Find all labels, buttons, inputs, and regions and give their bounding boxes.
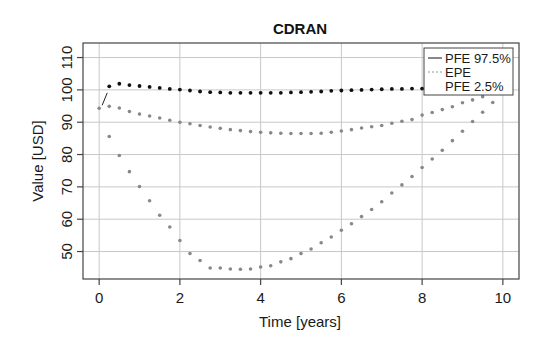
- pfe-97-5-point: [289, 91, 293, 95]
- pfe-97-5-point: [329, 89, 333, 93]
- pfe-97-5-point: [400, 87, 404, 91]
- pfe-97-5-point: [370, 88, 374, 92]
- pfe-2-5-point: [239, 268, 243, 272]
- pfe-97-5-point: [188, 89, 192, 93]
- epe-point: [309, 132, 313, 136]
- y-tick-label: 50: [58, 243, 75, 260]
- epe-point: [97, 107, 101, 111]
- pfe-97-5-point: [158, 86, 162, 90]
- pfe-2-5-point: [390, 191, 394, 195]
- pfe-2-5-point: [168, 225, 172, 229]
- pfe-2-5-point: [451, 139, 455, 143]
- pfe-2-5-point: [249, 267, 253, 271]
- legend: PFE 97.5% EPE PFE 2.5%: [424, 48, 513, 95]
- pfe-97-5-point: [360, 88, 364, 92]
- epe-point: [158, 116, 162, 120]
- y-axis: 5060708090100110: [58, 46, 83, 260]
- pfe-2-5-point: [218, 266, 222, 270]
- pfe-2-5-point: [481, 110, 485, 114]
- series-layer: [97, 82, 494, 271]
- epe-point: [128, 110, 132, 114]
- epe-point: [430, 111, 434, 115]
- pfe-2-5-point: [289, 257, 293, 261]
- pfe-97-5-point: [117, 82, 121, 86]
- pfe-2-5-point: [340, 228, 344, 232]
- epe-point: [259, 130, 263, 134]
- x-axis-label: Time [years]: [259, 313, 341, 330]
- pfe-2-5-point: [138, 185, 142, 189]
- pfe-2-5-point: [118, 154, 122, 158]
- pfe-2-5-point: [430, 157, 434, 161]
- pfe-2-5-point: [380, 200, 384, 204]
- pfe-2-5-point: [178, 239, 182, 243]
- pfe-2-5-point: [370, 208, 374, 212]
- y-axis-label: Value [USD]: [29, 120, 46, 201]
- pfe-2-5-point: [208, 266, 212, 270]
- epe-point: [350, 128, 354, 132]
- pfe-2-5-point: [319, 241, 323, 245]
- epe-point: [440, 108, 444, 112]
- pfe-2-5-point: [350, 222, 354, 226]
- epe-point: [178, 120, 182, 124]
- x-tick-label: 10: [495, 289, 512, 306]
- epe-point: [360, 126, 364, 130]
- series-pfe-2-5: [107, 101, 494, 271]
- pfe-97-5-point: [299, 90, 303, 94]
- epe-point: [329, 130, 333, 134]
- pfe-2-5-point: [440, 149, 444, 153]
- epe-point: [390, 121, 394, 125]
- legend-label-pfe-97-5: PFE 97.5%: [445, 51, 511, 66]
- pfe-2-5-point: [491, 101, 495, 105]
- pfe-2-5-point: [299, 252, 303, 256]
- pfe-2-5-point: [269, 264, 273, 268]
- pfe-97-5-point: [168, 87, 172, 91]
- series-epe: [97, 95, 484, 135]
- pfe-97-5-point: [198, 90, 202, 94]
- epe-point: [370, 125, 374, 129]
- pfe-2-5-point: [128, 170, 132, 174]
- x-tick-label: 4: [256, 289, 264, 306]
- legend-label-epe: EPE: [445, 65, 471, 80]
- pfe-2-5-point: [360, 215, 364, 219]
- epe-point: [461, 101, 465, 105]
- x-tick-label: 2: [176, 289, 184, 306]
- pfe-97-5-point: [339, 89, 343, 93]
- pfe-2-5-point: [279, 260, 283, 264]
- pfe-2-5-point: [158, 214, 162, 218]
- series-pfe-97-5: [107, 82, 424, 95]
- pfe-97-5-point: [390, 87, 394, 91]
- pfe-97-5-point: [138, 84, 142, 88]
- x-tick-label: 6: [337, 289, 345, 306]
- pfe-97-5-point: [178, 88, 182, 92]
- pfe-97-5-point: [107, 84, 111, 88]
- chart-title: CDRAN: [273, 20, 327, 37]
- epe-point: [218, 127, 222, 131]
- epe-point: [451, 105, 455, 109]
- epe-point: [279, 131, 283, 135]
- y-tick-label: 90: [58, 114, 75, 131]
- pfe-2-5-point: [309, 247, 313, 251]
- epe-point: [269, 131, 273, 135]
- pfe-2-5-point: [229, 267, 233, 271]
- pfe-2-5-point: [188, 252, 192, 256]
- epe-point: [420, 113, 424, 117]
- epe-point: [208, 125, 212, 129]
- pfe-97-5-point: [218, 91, 222, 95]
- y-tick-label: 70: [58, 179, 75, 196]
- pfe-97-5-point: [269, 91, 273, 95]
- legend-label-pfe-2-5: PFE 2.5%: [445, 79, 504, 94]
- epe-point: [410, 118, 414, 122]
- x-tick-label: 0: [95, 289, 103, 306]
- pfe-97-5-point: [228, 91, 232, 95]
- epe-point: [471, 98, 475, 102]
- epe-point: [148, 114, 152, 118]
- pfe-2-5-point: [148, 199, 152, 203]
- y-tick-label: 100: [58, 77, 75, 102]
- epe-point: [249, 130, 253, 134]
- epe-point: [229, 128, 233, 132]
- pfe-97-5-point: [319, 90, 323, 94]
- y-tick-label: 60: [58, 211, 75, 228]
- epe-point: [289, 132, 293, 136]
- pfe-2-5-point: [420, 166, 424, 170]
- pfe-97-5-point: [128, 83, 132, 87]
